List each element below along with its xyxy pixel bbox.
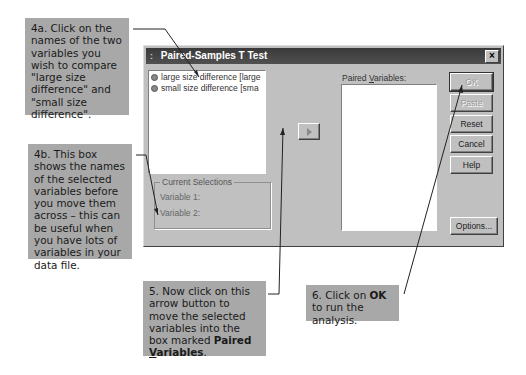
reset-button[interactable]: Reset <box>450 115 493 133</box>
right-arrow-icon <box>307 128 312 136</box>
help-button[interactable]: Help <box>450 156 493 174</box>
ok-button[interactable]: OK <box>450 73 493 91</box>
scale-variable-icon <box>151 74 158 81</box>
callout-5-end: . <box>203 346 206 358</box>
callout-5-bold-rest: ariables <box>156 346 203 358</box>
system-menu-icon[interactable]: : <box>150 48 158 64</box>
callout-6-text-end: to run the analysis. <box>312 301 364 325</box>
help-label: Help <box>463 160 480 170</box>
variable-label: large size difference [large <box>161 72 261 82</box>
options-label: Options... <box>456 221 492 231</box>
variable-1-label: Variable 1: <box>160 192 200 202</box>
paired-variables-label: Paired Variables: <box>342 73 406 83</box>
dialog-title: Paired-Samples T Test <box>161 50 268 61</box>
callout-5-bold: Paired <box>214 334 252 346</box>
close-icon: × <box>489 50 495 61</box>
paste-label: Paste <box>461 98 483 108</box>
callout-4a-text: 4a. Click on the names of the two variab… <box>31 22 122 120</box>
reset-label: Reset <box>460 119 482 129</box>
dialog-titlebar[interactable]: : Paired-Samples T Test <box>146 48 501 64</box>
current-selections-group: Current Selections Variable 1: Variable … <box>154 182 271 229</box>
callout-4a: 4a. Click on the names of the two variab… <box>25 18 129 115</box>
variable-item-large-size-difference[interactable]: large size difference [large <box>149 72 265 83</box>
paired-label-pre: Paired <box>342 73 369 83</box>
callout-6-bold: OK <box>370 289 387 301</box>
callout-4b-text: 4b. This box shows the names of the sele… <box>34 148 125 271</box>
ok-label: OK <box>465 77 477 87</box>
move-variables-arrow-button[interactable] <box>298 123 320 140</box>
callout-4b: 4b. This box shows the names of the sele… <box>28 144 132 259</box>
options-button[interactable]: Options... <box>450 217 498 235</box>
paste-button[interactable]: Paste <box>450 94 493 112</box>
callout-5: 5. Now click on this arrow button to mov… <box>143 281 266 356</box>
cancel-label: Cancel <box>458 139 484 149</box>
cancel-button[interactable]: Cancel <box>450 135 493 153</box>
callout-6-text: 6. Click on <box>312 289 370 301</box>
variable-item-small-size-difference[interactable]: small size difference [sma <box>149 83 265 94</box>
source-variables-list[interactable]: large size difference [large small size … <box>148 70 266 174</box>
variable-label: small size difference [sma <box>161 83 259 93</box>
paired-label-post: ariables: <box>374 73 406 83</box>
scale-variable-icon <box>151 85 158 92</box>
variable-2-label: Variable 2: <box>160 208 200 218</box>
paired-samples-t-test-dialog: : Paired-Samples T Test × large size dif… <box>143 45 504 247</box>
close-button[interactable]: × <box>485 50 499 63</box>
callout-6: 6. Click on OK to run the analysis. <box>306 285 399 321</box>
paired-variables-list[interactable] <box>341 84 437 231</box>
current-selections-legend: Current Selections <box>160 177 234 187</box>
